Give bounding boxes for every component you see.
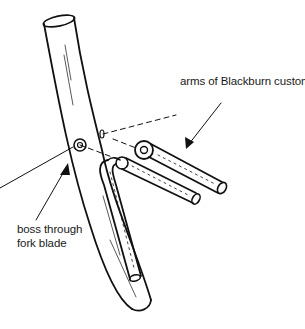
alignment-lines — [0, 115, 176, 188]
label-boss: boss through fork blade — [17, 222, 82, 250]
arrowhead-boss — [60, 163, 70, 175]
label-arms: arms of Blackburn custom low-rider — [180, 74, 305, 88]
rack-arm-upper — [135, 141, 228, 195]
fork-illustration — [0, 0, 305, 329]
label-boss-line2: fork blade — [17, 236, 82, 250]
label-boss-line1: boss through — [17, 222, 82, 236]
diagram-canvas: arms of Blackburn custom low-rider boss … — [0, 0, 305, 329]
